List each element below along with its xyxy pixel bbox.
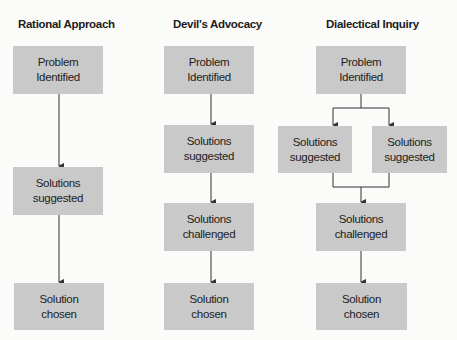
box-solutions-challenged: Solutions challenged	[164, 203, 254, 251]
box-label: Solutions challenged	[335, 212, 388, 242]
box-label: Solutions suggested	[184, 134, 234, 164]
box-label: Problem Identified	[187, 55, 231, 85]
box-label: Problem Identified	[339, 55, 383, 85]
box-problem-identified: Problem Identified	[13, 46, 103, 94]
box-solution-chosen: Solution chosen	[316, 283, 407, 330]
box-label: Solution chosen	[189, 292, 228, 322]
column-title-dialectical-inquiry: Dialectical Inquiry	[326, 18, 419, 30]
box-solutions-suggested-right: Solutions suggested	[372, 126, 447, 173]
box-solutions-suggested: Solutions suggested	[164, 125, 254, 173]
box-label: Solution chosen	[39, 292, 78, 322]
box-solution-chosen: Solution chosen	[164, 283, 254, 330]
box-label: Solution chosen	[342, 292, 381, 322]
box-problem-identified: Problem Identified	[316, 46, 406, 94]
box-label: Solutions suggested	[33, 176, 83, 206]
box-problem-identified: Problem Identified	[164, 46, 254, 94]
column-title-devils-advocacy: Devil's Advocacy	[173, 18, 262, 30]
box-solutions-challenged: Solutions challenged	[316, 203, 406, 251]
box-label: Solutions challenged	[183, 212, 236, 242]
column-title-rational: Rational Approach	[18, 18, 115, 30]
box-solution-chosen: Solution chosen	[14, 283, 104, 330]
box-label: Problem Identified	[36, 55, 80, 85]
box-label: Solutions suggested	[290, 135, 340, 165]
box-label: Solutions suggested	[384, 135, 434, 165]
box-solutions-suggested: Solutions suggested	[13, 167, 103, 215]
box-solutions-suggested-left: Solutions suggested	[278, 126, 352, 173]
